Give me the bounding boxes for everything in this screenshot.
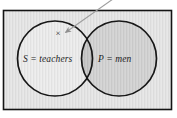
venn-diagram-figure: × S = teachers P = men — [0, 0, 177, 118]
x-mark: × — [55, 28, 60, 38]
set-label-s: S = teachers — [23, 54, 72, 64]
figure-canvas: × S = teachers P = men — [0, 0, 177, 118]
set-label-p: P = men — [97, 54, 131, 64]
